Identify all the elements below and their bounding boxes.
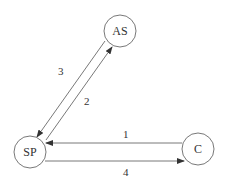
edge-4: 4 <box>45 161 184 178</box>
edge-2: 2 <box>46 47 112 140</box>
edge-1-label: 1 <box>123 128 129 140</box>
edge-4-label: 4 <box>123 166 129 178</box>
flow-diagram: 3 2 1 4 AS SP C <box>0 0 227 183</box>
node-as-label: AS <box>112 24 127 38</box>
edge-3: 3 <box>37 41 105 137</box>
node-c: C <box>182 133 214 165</box>
edge-2-line <box>46 47 112 140</box>
edge-2-label: 2 <box>84 95 90 107</box>
node-c-label: C <box>194 142 202 156</box>
node-sp-label: SP <box>23 145 37 159</box>
node-as: AS <box>104 15 136 47</box>
edge-1: 1 <box>46 128 182 143</box>
edge-3-label: 3 <box>58 65 64 77</box>
node-sp: SP <box>14 136 46 168</box>
edge-3-line <box>37 41 105 137</box>
